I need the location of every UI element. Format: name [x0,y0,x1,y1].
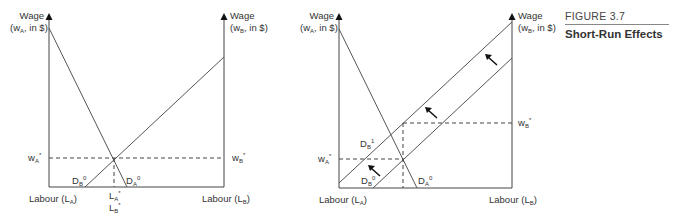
x-right-label: Labour (LB) [202,193,250,205]
demand-curve-A0 [49,28,127,187]
axis-arrow-icon [221,13,228,20]
wA-star-label: wA* [317,153,332,165]
right-axis-title: Wage [518,10,542,21]
wB-star-label: wB* [517,117,532,129]
DB1-label: DB1 [360,138,375,150]
axis-arrow-icon [46,13,53,20]
LA-star-label: LA* [109,190,121,202]
right-axis-unit: (wB, in $) [230,22,268,34]
x-right-label: Labour (LB) [489,194,537,206]
figure-divider [565,24,669,25]
axis-arrow-icon [509,13,516,20]
LB-star-label: LB* [109,202,121,214]
DB0-label: DB0 [361,175,376,187]
shift-arrow-icon [485,54,497,65]
DB0-label: DB0 [72,175,87,187]
DA0-label: DA0 [126,175,141,187]
right-axis-title: Wage [230,10,254,21]
shift-arrow-icon [425,107,437,118]
axis-arrow-icon [336,13,343,20]
left-axis-title: Wage [310,10,334,21]
x-left-label: Labour (LA) [319,194,367,206]
demand-curve-B0 [85,57,224,187]
left-axis-title: Wage [20,10,44,21]
right-axis-unit: (wB, in $) [518,22,556,34]
wA-star-label: wA* [27,152,42,164]
right-diagram: Wage (wA, in $) Wage (wB, in $) Labour (… [300,10,556,206]
DA0-label: DA0 [418,175,433,187]
demand-curve-A0 [339,29,417,188]
wB-star-label: wB* [231,152,246,164]
demand-curve-B1 [339,22,512,183]
figure-title: Short-Run Effects [565,28,663,40]
left-diagram: Wage (wA, in $) Wage (wB, in $) Labour (… [10,10,268,214]
x-left-label: Labour (LA) [29,193,77,205]
left-axis-unit: (wA, in $) [300,22,338,34]
demand-curve-B0 [373,58,512,188]
figure-number: FIGURE 3.7 [565,10,625,22]
left-axis-unit: (wA, in $) [10,22,48,34]
